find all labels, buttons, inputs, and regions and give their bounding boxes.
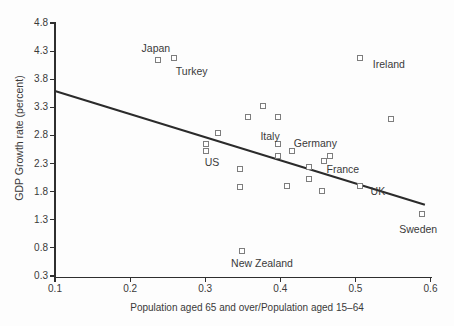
point-label-sweden: Sweden [399,223,437,234]
data-point-uk [357,183,363,189]
y-tick [50,163,54,164]
data-point-marker [327,153,333,159]
y-tick [50,22,54,23]
x-tick [355,278,356,282]
data-point-marker [388,116,394,122]
x-tick-label: 0.6 [424,284,438,294]
data-point-marker [275,153,281,159]
y-tick [50,275,54,276]
data-point-new-zealand [239,248,245,254]
y-tick-label: 4.3 [26,46,48,56]
y-axis-title: GDP Growth rate (percent) [13,75,25,200]
data-point-marker [215,130,221,136]
data-point-marker [284,183,290,189]
data-point-germany [289,148,295,154]
data-point-turkey [171,55,177,61]
x-axis-line [54,277,432,279]
x-tick-label: 0.1 [48,284,62,294]
x-tick [430,278,431,282]
x-tick-label: 0.3 [198,284,212,294]
point-label-new-zealand: New Zealand [231,257,293,268]
gdp-growth-scatter-chart: GDP Growth rate (percent) Population age… [0,0,454,326]
data-point-marker [203,141,209,147]
y-tick-label: 1.8 [26,187,48,197]
y-tick-label: 3.3 [26,102,48,112]
point-label-japan: Japan [142,42,171,53]
y-tick-label: 0.3 [26,271,48,281]
x-tick [130,278,131,282]
y-tick [50,191,54,192]
y-tick [50,219,54,220]
x-tick [280,278,281,282]
x-tick [54,278,55,282]
x-tick-label: 0.5 [348,284,362,294]
data-point-marker [245,114,251,120]
y-tick-label: 4.8 [26,18,48,28]
y-tick-label: 1.3 [26,215,48,225]
x-tick-label: 0.2 [123,284,137,294]
point-label-turkey: Turkey [176,66,208,77]
data-point-japan [155,57,161,63]
y-tick [50,79,54,80]
data-point-marker [275,114,281,120]
y-tick-label: 0.8 [26,243,48,253]
y-tick-label: 3.8 [26,74,48,84]
y-tick [50,107,54,108]
data-point-ireland [357,55,363,61]
point-label-uk: UK [371,186,386,197]
y-tick-label: 2.8 [26,130,48,140]
data-point-us [203,148,209,154]
data-point-france [306,164,312,170]
y-tick [50,51,54,52]
y-tick [50,247,54,248]
data-point-sweden [419,211,425,217]
data-point-italy [275,141,281,147]
data-point-marker [237,166,243,172]
point-label-us: US [205,157,220,168]
data-point-marker [319,188,325,194]
x-axis-title: Population aged 65 and over/Population a… [130,302,364,313]
y-axis-line [54,22,56,278]
point-label-ireland: Ireland [373,59,405,70]
x-tick [205,278,206,282]
data-point-marker [260,103,266,109]
point-label-france: France [326,164,359,175]
data-point-marker [237,184,243,190]
point-label-germany: Germany [294,138,337,149]
data-point-marker [306,176,312,182]
x-tick-label: 0.4 [273,284,287,294]
point-label-italy: Italy [260,131,279,142]
y-tick [50,135,54,136]
y-tick-label: 2.3 [26,159,48,169]
